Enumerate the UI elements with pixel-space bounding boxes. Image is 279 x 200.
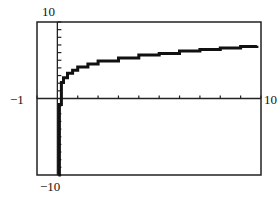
function-curve bbox=[58, 46, 257, 175]
graph-window bbox=[0, 0, 279, 200]
